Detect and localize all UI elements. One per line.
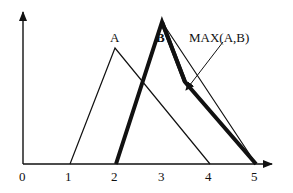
- label-a: A: [110, 30, 120, 45]
- x-tick-0: 0: [19, 169, 26, 184]
- x-tick-5: 5: [251, 169, 258, 184]
- label-b: B: [156, 30, 165, 45]
- x-tick-3: 3: [158, 169, 165, 184]
- triangle-a: [70, 48, 210, 164]
- fuzzy-max-diagram: A B MAX(A,B) 0 1 2 3 4 5: [0, 0, 293, 193]
- x-tick-4: 4: [205, 169, 212, 184]
- x-tick-1: 1: [65, 169, 72, 184]
- x-tick-2: 2: [111, 169, 118, 184]
- label-max: MAX(A,B): [189, 30, 249, 45]
